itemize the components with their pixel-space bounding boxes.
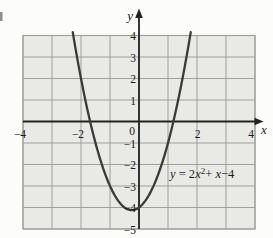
x-tick-label-neg4: −4 <box>14 128 26 140</box>
equation-term-plus: + <box>205 167 215 181</box>
origin-label: 0 <box>129 125 135 137</box>
y-tick-label-4: 4 <box>130 30 136 42</box>
equation-term-eq: = 2 <box>176 167 196 181</box>
y-tick-label-neg1: −1 <box>124 138 136 150</box>
y-axis-label: y <box>125 8 133 23</box>
y-tick-label-neg2: −2 <box>124 159 136 171</box>
y-tick-label-2: 2 <box>130 73 136 85</box>
y-axis-arrow-icon <box>135 9 143 19</box>
y-tick-label-neg5: −5 <box>124 224 136 236</box>
parabola-graph-svg: y x 4 3 2 1 −1 −2 −3 −4 −5 0 −4 −2 2 4 y… <box>0 0 273 238</box>
x-tick-label-2: 2 <box>195 128 201 140</box>
x-tick-label-neg2: −2 <box>72 128 84 140</box>
graph-figure: y x 4 3 2 1 −1 −2 −3 −4 −5 0 −4 −2 2 4 y… <box>0 0 273 238</box>
x-axis-label: x <box>260 122 267 137</box>
equation-term-minus4: −4 <box>221 167 235 181</box>
cut-off-character-fragment <box>0 12 3 21</box>
x-tick-label-4: 4 <box>248 128 254 140</box>
y-tick-label-neg3: −3 <box>124 181 136 193</box>
y-tick-label-neg4: −4 <box>124 202 136 214</box>
y-tick-label-3: 3 <box>130 52 136 64</box>
y-tick-label-1: 1 <box>130 95 136 107</box>
